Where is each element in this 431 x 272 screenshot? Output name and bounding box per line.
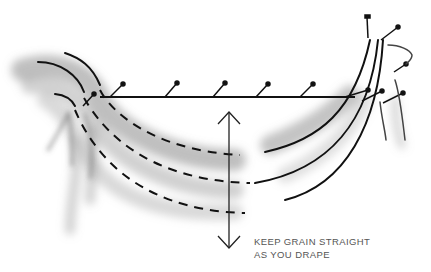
- caption-line-1: KEEP GRAIN STRAIGHT: [254, 235, 370, 248]
- fabric-shading: [22, 66, 402, 230]
- draping-illustration: [0, 0, 431, 272]
- caption-line-2: AS YOU DRAPE: [254, 248, 370, 261]
- caption: KEEP GRAIN STRAIGHT AS YOU DRAPE: [254, 235, 370, 261]
- pins: [83, 15, 408, 106]
